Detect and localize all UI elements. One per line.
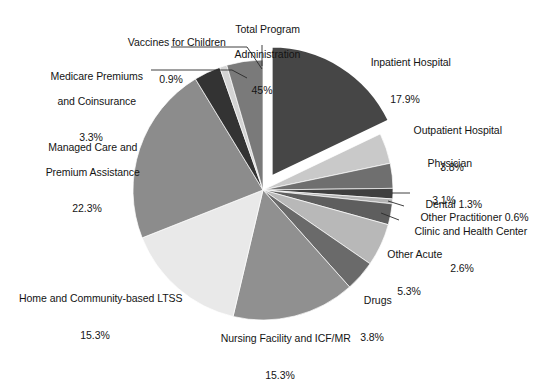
label-home-community-ltss-pct: 15.3% (6, 329, 184, 341)
label-home-community-ltss: Home and Community-based LTSS 15.3% (6, 280, 184, 365)
label-total-program-administration-line1: Total Program (235, 23, 300, 35)
label-outpatient-hospital-pct: 3.8% (396, 161, 508, 173)
label-inpatient-hospital-pct: 17.9% (352, 93, 458, 105)
label-home-community-ltss-name: Home and Community-based LTSS (19, 292, 183, 304)
label-managed-care-line2: Premium Assistance (46, 166, 140, 178)
label-nursing-facility-pct: 15.3% (196, 369, 364, 381)
label-nursing-facility-name: Nursing Facility and ICF/MR (221, 332, 351, 344)
label-inpatient-hospital: Inpatient Hospital 17.9% (352, 44, 458, 129)
label-medicare-premiums-line1: Medicare Premiums (50, 70, 143, 82)
label-drugs-pct: 3.8% (344, 331, 400, 343)
label-managed-care-pct: 22.3% (23, 202, 151, 214)
label-managed-care-line1: Managed Care and (48, 141, 137, 153)
label-total-program-administration: Total Program Administration 45% (194, 11, 330, 121)
label-nursing-facility: Nursing Facility and ICF/MR 15.3% (196, 320, 364, 383)
label-medicare-premiums-line2: and Coinsurance (57, 95, 136, 107)
label-managed-care: Managed Care and Premium Assistance 22.3… (23, 129, 151, 239)
label-total-program-administration-line2: Administration (235, 48, 301, 60)
label-total-program-administration-pct: 45% (194, 84, 330, 96)
label-inpatient-hospital-name: Inpatient Hospital (371, 56, 451, 68)
label-clinic-health-center-pct: 2.6% (403, 262, 521, 274)
